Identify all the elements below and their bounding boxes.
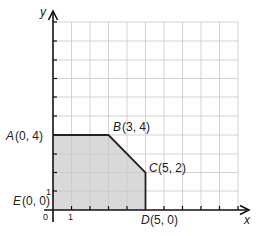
svg-text:D: D [141,213,150,227]
svg-text:(0, 0): (0, 0) [22,194,50,208]
graph: y x 0 1 1 A (0, 4) B (3, 4) C (5, 2) D (… [0,0,262,236]
svg-text:E: E [13,194,22,208]
x-tick-label: 1 [68,212,73,222]
point-label-C: C (5, 2) [149,161,186,175]
point-label-E: E (0, 0) [13,194,50,208]
origin-label: 0 [43,212,48,222]
y-axis-label: y [39,5,47,19]
svg-text:(5, 0): (5, 0) [150,213,178,227]
svg-text:(3, 4): (3, 4) [122,120,150,134]
svg-text:(5, 2): (5, 2) [158,161,186,175]
svg-text:B: B [113,120,121,134]
point-label-B: B (3, 4) [113,120,150,134]
svg-text:A: A [5,129,14,143]
point-label-D: D (5, 0) [141,213,178,227]
svg-text:(0, 4): (0, 4) [15,129,43,143]
point-label-A: A (0, 4) [5,129,43,143]
x-axis-label: x [243,213,251,227]
svg-text:C: C [149,161,158,175]
